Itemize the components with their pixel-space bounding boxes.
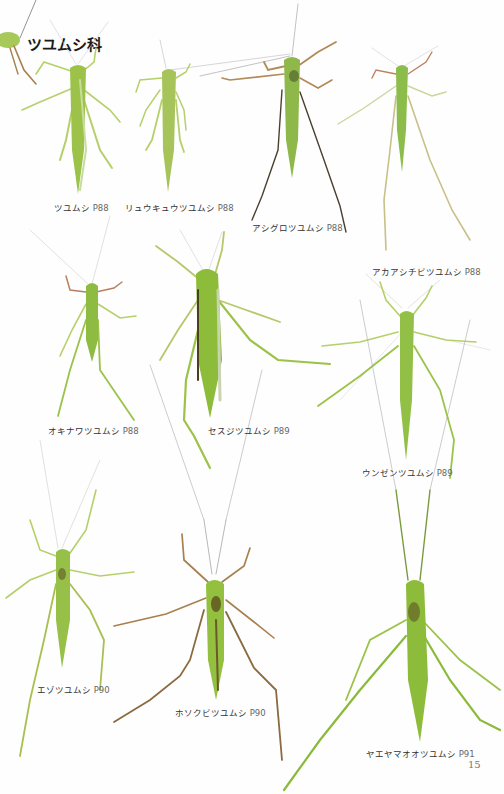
page-ref: P91 <box>459 749 475 759</box>
species-label-2: リュウキュウツユムシ P88 <box>125 201 234 213</box>
insect-photos <box>0 0 504 794</box>
species-name: オキナワツユムシ <box>48 426 120 436</box>
species-name: ホソクビツユムシ <box>175 708 247 718</box>
species-name: ツユムシ <box>54 203 90 213</box>
page-ref: P88 <box>465 267 481 277</box>
insect-akaashichibi-tsuyumushi <box>338 46 470 250</box>
species-label-1: ツユムシ P88 <box>54 201 109 213</box>
field-guide-page: ツユムシ科 <box>0 0 504 794</box>
species-label-7: ウンゼンツユムシ P89 <box>362 466 453 478</box>
species-label-9: ホソクビツユムシ P90 <box>175 706 266 718</box>
page-ref: P89 <box>437 468 453 478</box>
species-label-5: オキナワツユムシ P88 <box>48 424 139 436</box>
insect-ashiguro-tsuyumushi <box>200 4 346 232</box>
species-name: ウンゼンツユムシ <box>362 468 434 478</box>
insect-ryukyu-tsuyumushi <box>136 40 290 192</box>
species-label-3: アシグロツユムシ P88 <box>252 221 343 233</box>
species-label-4: アカアシチビツユムシ P88 <box>372 265 481 277</box>
insect-yaeyama-oo-tsuyumushi <box>284 300 500 790</box>
page-ref: P88 <box>123 426 139 436</box>
page-ref: P90 <box>250 708 266 718</box>
species-name: エゾツユムシ <box>37 685 91 695</box>
species-name: リュウキュウツユムシ <box>125 203 215 213</box>
species-label-10: ヤエヤマオオツユムシ P91 <box>366 747 475 759</box>
insect-tsuyumushi <box>22 20 120 194</box>
page-ref: P89 <box>274 426 290 436</box>
insect-ezo-tsuyumushi <box>6 440 134 756</box>
page-ref: P88 <box>218 203 234 213</box>
partial-insect-corner <box>0 0 36 84</box>
insect-okinawa-tsuyumushi <box>30 216 136 420</box>
page-ref: P90 <box>94 685 110 695</box>
species-name: ヤエヤマオオツユムシ <box>366 749 456 759</box>
page-number: 15 <box>468 759 481 770</box>
species-label-6: セスジツユムシ P89 <box>208 424 290 436</box>
page-ref: P88 <box>327 223 343 233</box>
page-ref: P88 <box>93 203 109 213</box>
species-name: アカアシチビツユムシ <box>372 267 462 277</box>
insect-unzen-tsuyumushi <box>318 274 490 478</box>
species-label-8: エゾツユムシ P90 <box>37 683 110 695</box>
species-name: アシグロツユムシ <box>252 223 324 233</box>
species-name: セスジツユムシ <box>208 426 271 436</box>
